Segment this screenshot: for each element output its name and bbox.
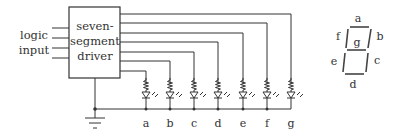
channel-c <box>190 78 206 111</box>
display-label-b: b <box>376 30 383 43</box>
label-b: b <box>166 117 173 130</box>
segment-e <box>343 53 345 72</box>
driver-label-line3: driver <box>77 49 113 63</box>
led-icon <box>190 92 198 98</box>
display-label-f: f <box>336 30 341 43</box>
label-d: d <box>214 117 221 130</box>
led-icon <box>263 92 271 98</box>
input-label-line1: logic <box>20 28 48 42</box>
resistor-icon <box>144 78 149 92</box>
led-icon <box>287 92 295 98</box>
driver-label-line2: segment <box>70 34 120 48</box>
display-label-e: e <box>331 55 338 68</box>
resistor-icon <box>192 78 197 92</box>
label-a: a <box>143 117 150 130</box>
driver-label-line1: seven- <box>76 19 113 33</box>
channel-f <box>263 78 279 111</box>
seven-segment-driver-circuit: logic input seven- segment driver <box>0 0 399 137</box>
channel-g <box>287 78 303 109</box>
channel-e <box>239 78 255 111</box>
segment-f <box>346 29 348 48</box>
segment-channels <box>142 78 303 111</box>
resistor-icon <box>216 78 221 92</box>
label-g: g <box>287 117 294 130</box>
led-icon <box>239 92 247 98</box>
display-label-d: d <box>349 78 356 91</box>
resistor-icon <box>168 78 173 92</box>
segment-labels: a b c d e f g <box>143 117 295 130</box>
display-label-a: a <box>355 12 362 25</box>
display-label-c: c <box>374 54 380 67</box>
led-icon <box>142 92 150 98</box>
seven-segment-display-legend: a b c d e f g <box>331 12 384 91</box>
resistor-icon <box>241 78 246 92</box>
channel-d <box>214 78 230 111</box>
label-c: c <box>191 117 197 130</box>
segment-c <box>366 53 368 72</box>
resistor-icon <box>265 78 270 92</box>
segment-b <box>368 29 371 48</box>
label-f: f <box>265 117 270 130</box>
output-wires <box>120 14 291 84</box>
logic-input-lines <box>52 28 69 58</box>
display-label-g: g <box>353 36 360 49</box>
label-e: e <box>240 117 247 130</box>
input-label-line2: input <box>19 43 50 57</box>
ground-icon <box>85 118 105 128</box>
led-icon <box>214 92 222 98</box>
led-icon <box>166 92 174 98</box>
channel-a <box>142 78 158 111</box>
resistor-icon <box>289 78 294 92</box>
channel-b <box>166 78 182 111</box>
